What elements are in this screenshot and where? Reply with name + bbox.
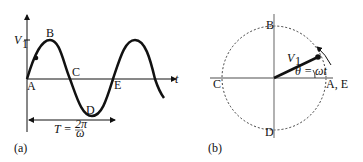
period-label: T = [54,122,72,136]
sine-wave [27,40,164,116]
point-a: A [27,79,36,93]
angle-label: θ = ωt [295,64,327,78]
period-denominator: ω [76,126,84,140]
point-c: C [72,65,80,79]
caption-b: (b) [208,141,222,155]
point-d-phasor: D [265,125,274,139]
y-axis-label-sub: 1 [22,37,28,51]
point-e: E [114,78,121,92]
point-ae-phasor: A, E [326,77,348,91]
phasor-tip [315,54,321,60]
x-axis-label: t [175,72,179,86]
point-b-phasor: B [266,18,274,32]
point-b: B [46,26,54,40]
point-c-phasor: C [213,77,221,91]
point-d: D [86,103,95,117]
panel-a: V 1 t A B C D E T = 2π ω (a) [14,15,179,155]
panel-b: B C D A, E V 1 θ = ωt (b) [208,14,348,155]
caption-a: (a) [14,141,27,155]
diagram-canvas: V 1 t A B C D E T = 2π ω (a) B C D A, E … [0,0,363,162]
point-marker [34,56,39,61]
